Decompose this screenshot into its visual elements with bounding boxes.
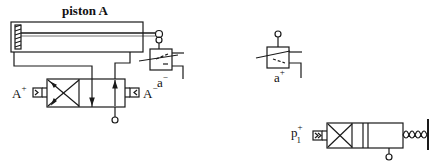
p1-label: p+1 [291,126,301,143]
pneumatic-diagram: piston A a− A+ A− a+ p+1 [0,0,440,167]
A-plus-label: A+ [12,87,26,100]
main-valve [33,79,139,123]
a-plus-label: a+ [274,71,285,84]
circuit-drawing [0,0,440,167]
p1-valve [313,119,428,160]
A-minus-label: A− [143,87,157,100]
a-minus-label: a− [157,76,168,89]
limit-valve-a-minus [139,43,184,79]
piston-label: piston A [62,4,108,17]
piston-cylinder [11,22,163,52]
